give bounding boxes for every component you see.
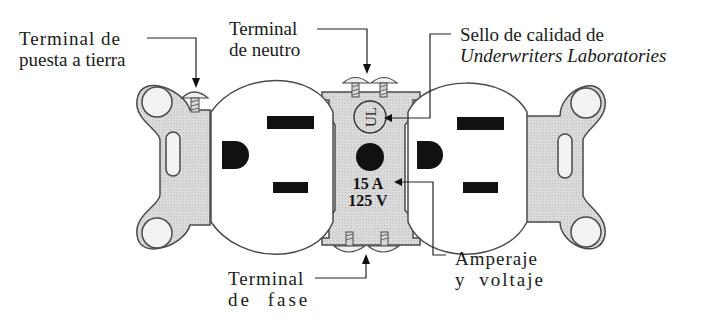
ground-terminal-label-line2: puesta a tierra	[19, 49, 126, 70]
right-receptacle-face	[408, 83, 527, 254]
outlet-diagram: UL 15 A 125 V	[0, 0, 709, 325]
ul-seal-label-line1: Sello de calidad de	[460, 24, 666, 45]
phase-leader	[315, 262, 366, 278]
ul-seal-label: Sello de calidad de Underwriters Laborat…	[460, 24, 666, 66]
ground-terminal-label: Terminal de puesta a tierra	[19, 28, 126, 70]
neutral-leader	[317, 29, 367, 66]
rating-label-line2: y voltaje	[455, 269, 545, 290]
phase-terminal-label-line1: Terminal	[228, 268, 310, 289]
right-neutral-slot	[457, 117, 504, 130]
left-hot-slot	[273, 182, 308, 193]
phase-terminal-label: Terminal de fase	[228, 268, 310, 310]
arrow-down-icon	[192, 78, 200, 88]
rating-label-line1: Amperaje	[455, 248, 545, 269]
ground-leader	[147, 38, 196, 80]
arrow-up-icon	[362, 254, 370, 264]
left-receptacle-face	[211, 81, 333, 255]
rating-label: Amperaje y voltaje	[455, 248, 545, 290]
neutral-terminal-label-line1: Terminal	[229, 18, 300, 39]
neutral-terminal-label: Terminal de neutro	[229, 18, 300, 60]
center-mounting-hole	[356, 143, 384, 171]
left-ground-hole	[222, 141, 249, 169]
right-mounting-ear	[525, 86, 605, 249]
arrow-down-icon	[363, 64, 371, 74]
ul-seal-label-line2: Underwriters Laboratories	[460, 45, 666, 66]
ul-mark: UL	[363, 107, 379, 127]
voltage-text: 125 V	[348, 192, 388, 209]
ground-terminal-label-line1: Terminal de	[19, 28, 126, 49]
phase-terminal-label-line2: de fase	[228, 289, 310, 310]
left-neutral-slot	[267, 116, 314, 129]
neutral-terminal-label-line2: de neutro	[229, 39, 300, 60]
amperage-text: 15 A	[353, 175, 384, 192]
right-hot-slot	[463, 182, 498, 193]
